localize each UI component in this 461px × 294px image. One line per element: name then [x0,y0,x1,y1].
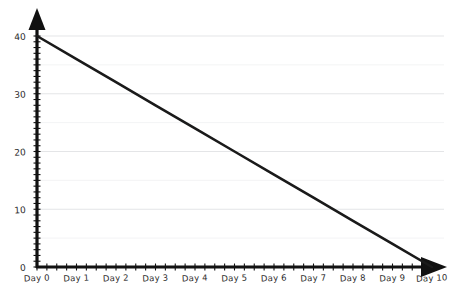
chart-canvas: 403020100 Day 0Day 1Day 2Day 3Day 4Day 5… [0,0,461,294]
y-axis-label: 10 [14,205,26,216]
y-axis-arrowhead [29,8,46,30]
y-axis-label: 40 [14,32,26,43]
x-axis-label: Day 7 [300,272,326,283]
y-axis-labels-group: 403020100 [14,32,26,273]
x-axis-label: Day 4 [182,272,208,283]
burndown-chart: 403020100 Day 0Day 1Day 2Day 3Day 4Day 5… [0,0,461,294]
x-axis-label: Day 5 [221,272,247,283]
y-axis-ticks-group [34,36,41,267]
x-axis-label: Day 2 [103,272,129,283]
axes-group [29,8,448,277]
x-axis-ticks-group [37,264,432,271]
x-axis-labels-group: Day 0Day 1Day 2Day 3Day 4Day 5Day 6Day 7… [24,272,448,283]
y-axis-label: 20 [14,147,26,158]
y-axis-label: 0 [20,263,27,273]
gridlines-group [39,36,444,238]
x-axis-label: Day 8 [340,272,366,283]
x-axis-label: Day 1 [63,272,89,283]
y-axis-label: 30 [14,89,26,100]
x-axis-label: Day 3 [142,272,168,283]
x-axis-label: Day 10 [416,272,448,283]
x-axis-label: Day 0 [24,272,50,283]
x-axis-label: Day 9 [379,272,405,283]
x-axis-label: Day 6 [261,272,287,283]
